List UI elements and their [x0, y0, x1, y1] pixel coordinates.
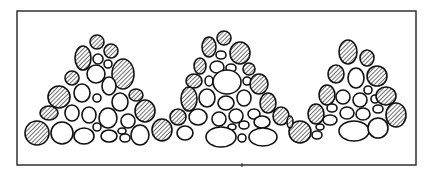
plain-stone [336, 90, 350, 104]
hatched-stone [135, 100, 155, 122]
plain-stone [373, 105, 383, 113]
hatched-stone [319, 85, 335, 105]
plain-stone [74, 128, 94, 144]
plain-stone [353, 93, 367, 107]
hatched-stone [194, 58, 206, 74]
plain-stone [101, 130, 117, 142]
pile-right [287, 40, 406, 143]
hatched-stone [230, 42, 250, 64]
plain-stone [229, 109, 243, 123]
pebble-piles-diagram [0, 0, 431, 173]
plain-stone [339, 121, 369, 141]
plain-stone [177, 126, 193, 140]
hatched-stone [90, 35, 104, 49]
plain-stone [93, 123, 101, 131]
plain-stone [102, 77, 116, 95]
plain-stone [212, 112, 226, 126]
plain-stone [239, 121, 249, 129]
plain-stone [93, 54, 103, 64]
plain-stone [199, 89, 215, 107]
plain-stone [312, 131, 322, 139]
hatched-stone [75, 46, 91, 70]
hatched-stone [129, 89, 143, 101]
plain-stone [104, 60, 112, 68]
pile-left [25, 35, 172, 145]
plain-stone [82, 107, 96, 123]
hatched-stone [287, 116, 293, 128]
hatched-stone [243, 63, 255, 75]
plain-stone [237, 90, 251, 106]
hatched-stone [260, 93, 276, 113]
hatched-stone [170, 109, 186, 125]
plain-stone [340, 107, 354, 119]
plain-stone [74, 84, 90, 102]
plain-stone [323, 115, 337, 125]
plain-stone [118, 128, 126, 134]
plain-stone [327, 104, 337, 112]
hatched-stone [367, 66, 387, 86]
hatched-stone [360, 50, 374, 66]
plain-stone [254, 116, 270, 128]
plain-stone [121, 114, 135, 128]
plain-stone [316, 124, 324, 130]
plain-stone [120, 134, 130, 142]
hatched-stone [104, 44, 118, 58]
plain-stone [205, 76, 213, 86]
hatched-stone [339, 40, 357, 64]
plain-stone [356, 108, 370, 120]
plain-stone [348, 68, 364, 88]
plain-stone [131, 125, 149, 145]
hatched-stone [386, 103, 406, 127]
hatched-stone [202, 37, 216, 57]
plain-stone [368, 118, 388, 138]
hatched-stone [181, 87, 197, 111]
hatched-stone [328, 65, 344, 83]
plain-stone [189, 109, 207, 125]
hatched-stone [25, 121, 49, 145]
plain-stone [216, 51, 226, 59]
plain-stone [206, 127, 236, 147]
plain-stone [218, 96, 234, 110]
plain-stone [213, 70, 241, 94]
hatched-stone [65, 71, 79, 85]
plain-stone [51, 122, 73, 144]
hatched-stone [308, 104, 324, 124]
piles-group [25, 31, 406, 147]
plain-stone [87, 65, 105, 83]
plain-stone [249, 128, 277, 146]
hatched-stone [250, 74, 268, 94]
plain-stone [112, 93, 128, 111]
hatched-stone [186, 74, 202, 88]
hatched-stone [40, 106, 58, 120]
hatched-stone [48, 86, 70, 108]
hatched-stone [376, 87, 396, 105]
pile-middle [170, 31, 289, 147]
hatched-stone [152, 119, 172, 141]
plain-stone [238, 134, 246, 142]
hatched-stone [217, 31, 231, 45]
plain-stone [93, 94, 101, 102]
plain-stone [99, 108, 117, 128]
plain-stone [65, 105, 79, 121]
plain-stone [364, 86, 372, 94]
